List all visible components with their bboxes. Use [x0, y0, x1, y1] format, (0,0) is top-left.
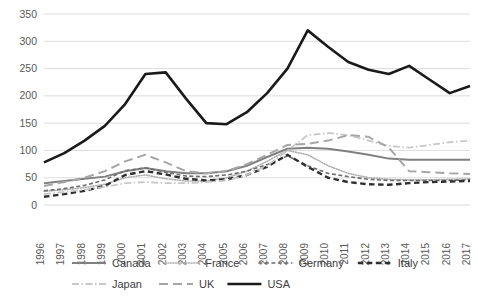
legend-label-italy: Italy	[398, 257, 419, 269]
x-axis-tick-label: 2007	[258, 243, 269, 266]
legend-label-france: France	[205, 257, 239, 269]
x-axis-tick-label: 2008	[278, 243, 289, 266]
legend-item-usa[interactable]: USA	[227, 278, 290, 290]
legend-item-uk[interactable]: UK	[159, 278, 215, 290]
x-axis-tick-label: 1998	[76, 243, 87, 266]
x-axis-tick-label: 2016	[441, 243, 452, 266]
y-axis-tick-label: 200	[19, 89, 37, 101]
x-axis-tick-label: 2002	[157, 243, 168, 266]
y-axis-tick-label: 100	[19, 144, 37, 156]
legend-item-germany[interactable]: Germany	[258, 257, 344, 269]
legend-label-germany: Germany	[298, 257, 344, 269]
x-axis-tick-label: 2006	[238, 243, 249, 266]
x-axis-tick-label: 1997	[55, 243, 66, 266]
y-axis-tick-label: 300	[19, 35, 37, 47]
series-line-usa	[44, 30, 470, 162]
chart-canvas: 0501001502002503003501996199719981999200…	[0, 0, 478, 302]
legend-item-japan[interactable]: Japan	[72, 278, 142, 290]
x-axis-tick-label: 2015	[420, 243, 431, 266]
y-axis-tick-label: 0	[31, 199, 37, 211]
y-axis-tick-label: 50	[25, 171, 37, 183]
x-axis-tick-label: 1996	[35, 243, 46, 266]
y-axis-tick-label: 250	[19, 62, 37, 74]
y-axis-tick-label: 350	[19, 8, 37, 20]
legend-label-japan: Japan	[112, 278, 142, 290]
x-axis-tick-label: 2017	[461, 243, 472, 266]
y-axis-tick-label: 150	[19, 117, 37, 129]
legend-label-canada: Canada	[112, 257, 151, 269]
legend-label-uk: UK	[199, 278, 215, 290]
line-chart: 0501001502002503003501996199719981999200…	[0, 0, 478, 302]
series-lines	[44, 30, 470, 196]
x-axis-tick-label: 1999	[96, 243, 107, 266]
legend-label-usa: USA	[267, 278, 290, 290]
x-axis-tick-label: 2003	[177, 243, 188, 266]
